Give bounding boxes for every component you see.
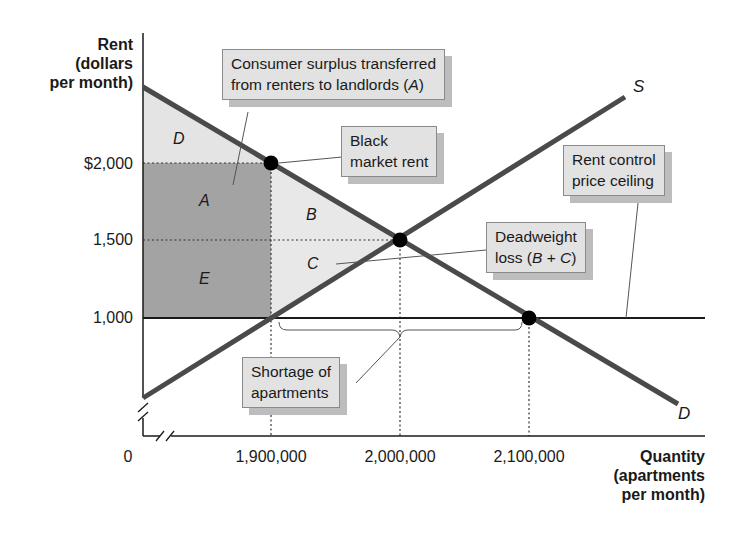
callout-text-part: + <box>542 249 560 266</box>
callout-var: C <box>560 249 571 266</box>
y-axis-title-line: per month) <box>49 73 133 92</box>
region-label-a: A <box>199 192 210 210</box>
leader-shortage <box>356 337 400 383</box>
callout-text: Rent control <box>572 149 656 170</box>
callout-var: B <box>532 249 542 266</box>
callout-text: Black <box>350 130 428 151</box>
supply-curve-label: S <box>633 77 644 97</box>
shortage-brace <box>279 322 522 337</box>
callout-text: market rent <box>350 151 428 172</box>
y-axis-title-line: Rent <box>49 35 133 54</box>
region-b-c-area <box>271 163 400 318</box>
x-tick-1900000: 1,900,000 <box>211 448 331 466</box>
leader-rent-control <box>626 203 638 318</box>
callout-var: A <box>408 76 418 93</box>
callout-text: Deadweight <box>495 226 577 247</box>
x-tick-origin: 0 <box>68 448 188 466</box>
x-axis-title: Quantity (apartments per month) <box>613 447 705 504</box>
callout-text-part: ) <box>571 249 576 266</box>
x-axis-title-line: (apartments <box>613 466 705 485</box>
y-axis-title: Rent (dollars per month) <box>49 35 133 92</box>
callout-black-market-rent: Black market rent <box>341 126 437 177</box>
region-label-d: D <box>173 130 185 148</box>
y-tick-2000: $2,000 <box>53 155 133 173</box>
callout-text: Consumer surplus transferred <box>231 53 436 74</box>
callout-text: Shortage of <box>251 361 331 382</box>
callout-text: price ceiling <box>572 170 656 191</box>
equilibrium-point <box>393 233 408 248</box>
callout-rent-control: Rent control price ceiling <box>563 145 665 196</box>
callout-shortage: Shortage of apartments <box>242 357 340 408</box>
region-label-b: B <box>306 206 317 224</box>
callout-text: loss (B + C) <box>495 247 577 268</box>
y-tick-1500: 1,500 <box>53 231 133 249</box>
y-axis-title-line: (dollars <box>49 54 133 73</box>
callout-text-part: from renters to landlords ( <box>231 76 408 93</box>
region-label-c: C <box>307 255 319 273</box>
ceiling-demand-point <box>522 311 537 326</box>
leader-black-market <box>279 157 342 163</box>
callout-text: from renters to landlords (A) <box>231 74 436 95</box>
callout-text-part: loss ( <box>495 249 532 266</box>
x-axis-title-line: per month) <box>613 485 705 504</box>
black-market-point <box>264 156 279 171</box>
x-tick-2100000: 2,100,000 <box>469 448 589 466</box>
callout-deadweight-loss: Deadweight loss (B + C) <box>486 222 586 273</box>
callout-text: apartments <box>251 382 331 403</box>
callout-text-part: ) <box>419 76 424 93</box>
callout-consumer-surplus: Consumer surplus transferred from renter… <box>222 49 445 100</box>
demand-curve-label: D <box>678 404 690 424</box>
x-tick-2000000: 2,000,000 <box>340 448 460 466</box>
region-label-e: E <box>199 270 210 288</box>
y-tick-1000: 1,000 <box>53 309 133 327</box>
x-axis-title-line: Quantity <box>613 447 705 466</box>
